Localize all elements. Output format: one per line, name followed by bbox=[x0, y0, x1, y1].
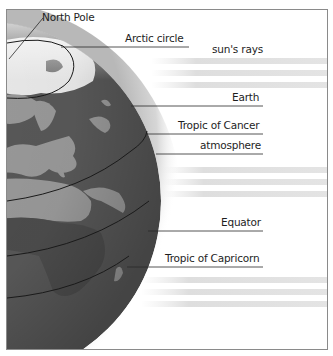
label-suns-rays: sun's rays bbox=[212, 43, 263, 55]
label-tropic-of-capricorn: Tropic of Capricorn bbox=[165, 252, 259, 264]
label-equator: Equator bbox=[221, 216, 261, 228]
label-earth: Earth bbox=[232, 91, 259, 103]
label-north-pole: North Pole bbox=[42, 11, 94, 23]
label-atmosphere: atmosphere bbox=[200, 139, 261, 151]
diagram-frame bbox=[6, 9, 328, 350]
earth-diagram bbox=[7, 10, 328, 350]
label-tropic-of-cancer: Tropic of Cancer bbox=[178, 119, 259, 131]
label-arctic-circle: Arctic circle bbox=[125, 32, 184, 44]
